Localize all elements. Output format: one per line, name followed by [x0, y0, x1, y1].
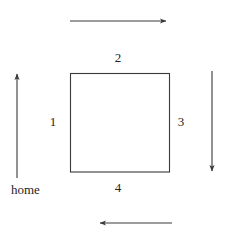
home-label: home — [11, 183, 40, 196]
side-label-3: 3 — [171, 115, 191, 128]
path-square — [71, 74, 170, 173]
side-label-1: 1 — [43, 115, 63, 128]
square-path-diagram: 1 2 3 4 home — [0, 0, 229, 239]
side-label-2: 2 — [108, 51, 128, 64]
side-label-4: 4 — [108, 181, 128, 194]
diagram-canvas — [0, 0, 229, 239]
